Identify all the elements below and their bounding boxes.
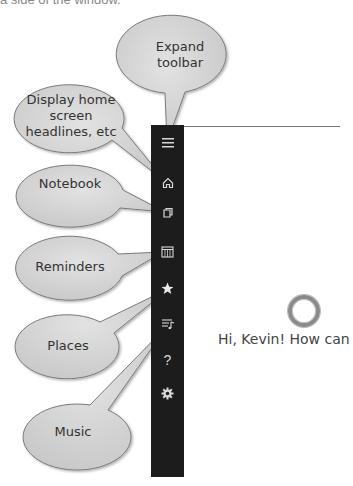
sidebar-item-settings[interactable]	[151, 383, 184, 403]
help-icon: ?	[164, 352, 172, 368]
gear-icon	[161, 387, 174, 400]
callout-home-label: Display homescreenheadlines, etc	[16, 90, 126, 142]
sidebar-item-help[interactable]: ?	[151, 350, 184, 370]
callout-places-label: Places	[16, 336, 120, 356]
sidebar-item-reminders[interactable]	[151, 242, 184, 262]
cortana-greeting: Hi, Kevin! How can	[218, 331, 350, 347]
sidebar-item-menu[interactable]	[151, 133, 184, 153]
music-icon	[161, 318, 175, 330]
cortana-logo[interactable]	[288, 295, 320, 327]
cortana-sidebar: ?	[151, 125, 184, 477]
reminders-icon	[161, 246, 174, 258]
home-icon	[162, 177, 174, 189]
callout-reminders-label: Reminders	[16, 257, 124, 277]
sidebar-item-music[interactable]	[151, 314, 184, 334]
panel-top-divider	[184, 126, 340, 127]
star-icon	[161, 282, 174, 295]
callout-notebook-label: Notebook	[16, 174, 124, 194]
notebook-icon	[162, 207, 174, 219]
callout-music-label: Music	[19, 422, 127, 442]
callout-places	[15, 288, 170, 379]
sidebar-item-home[interactable]	[151, 173, 184, 193]
callout-expand-toolbar-label: Expandtoolbar	[128, 30, 232, 80]
sidebar-item-notebook[interactable]	[151, 203, 184, 223]
sidebar-item-places[interactable]	[151, 278, 184, 298]
hamburger-icon	[161, 137, 175, 149]
